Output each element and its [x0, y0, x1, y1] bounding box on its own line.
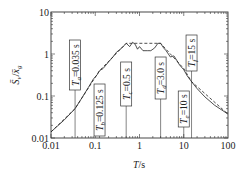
period-marker: Tc=0.5 s [121, 62, 134, 138]
x-tick-label: 1 [137, 140, 142, 151]
y-tick-label: 0.01 [32, 133, 50, 144]
period-marker: Tb=0.125 s [94, 84, 107, 138]
y-tick-label: 1 [44, 49, 49, 60]
x-tick-label: 100 [221, 140, 236, 151]
x-axis-title: T/s [133, 159, 145, 170]
chart: 0.010.1110100 0.010.1110 Ta=0.035 sTb=0.… [0, 0, 245, 177]
period-marker: Te=10 s [178, 91, 191, 138]
y-tick-label: 0.1 [37, 91, 50, 102]
y-axis-title: S̄v/x̄g [10, 65, 23, 84]
period-marker: Ta=0.035 s [70, 40, 83, 138]
period-marker: Td=3.0 s [155, 57, 168, 138]
y-tick-label: 10 [39, 7, 49, 18]
x-tick-label: 10 [179, 140, 189, 151]
x-tick-label: 0.1 [89, 140, 102, 151]
